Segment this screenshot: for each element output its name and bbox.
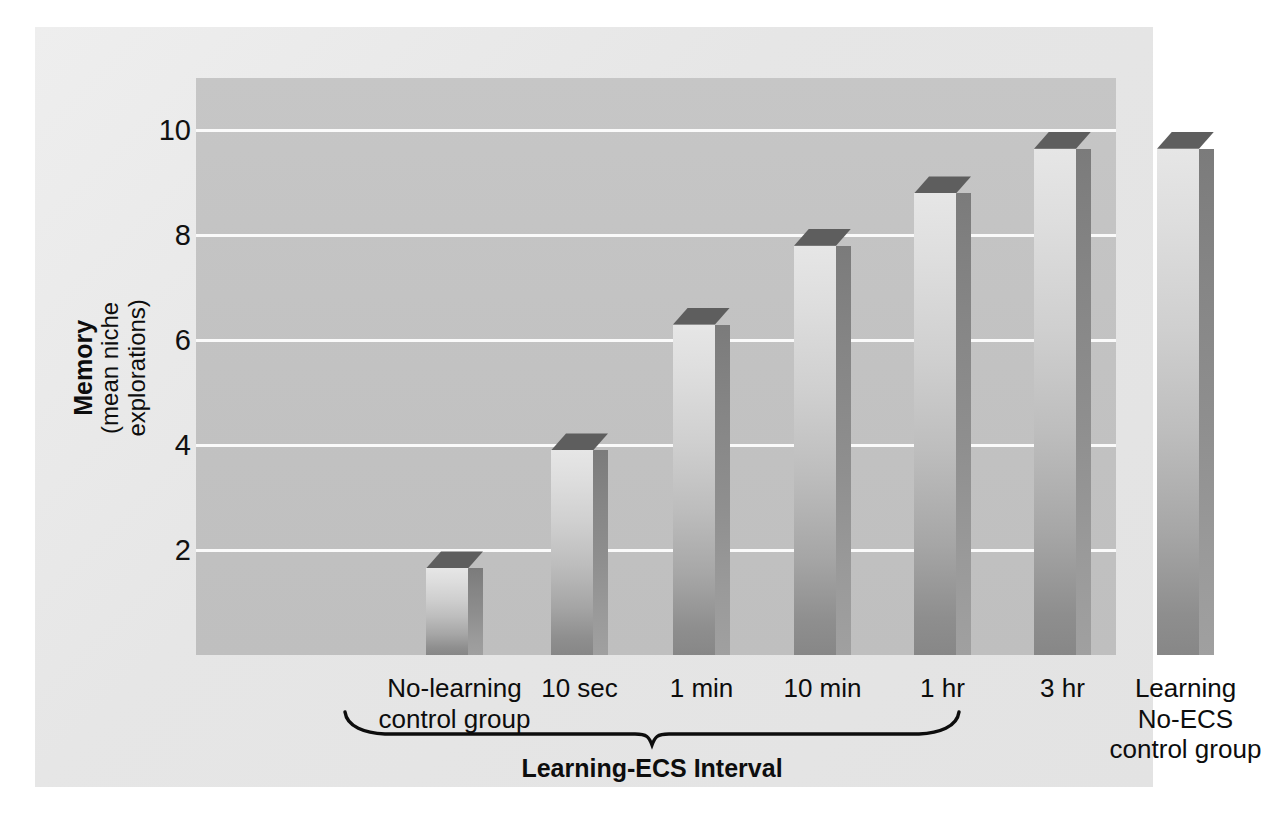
bar-side-face xyxy=(715,325,730,655)
chart-figure: 246810 Memory (mean niche explorations) … xyxy=(35,27,1153,787)
bar xyxy=(914,176,971,655)
bar-side-face xyxy=(836,246,851,655)
y-tick-label: 8 xyxy=(145,219,191,252)
bar-front-face xyxy=(1034,149,1076,655)
bar-front-face xyxy=(794,246,836,655)
bar-top-face xyxy=(673,308,730,325)
bar-side-face xyxy=(1199,149,1214,655)
bar-side-face xyxy=(593,450,608,655)
gridline xyxy=(196,234,1116,237)
bar xyxy=(551,433,608,655)
y-tick-label: 6 xyxy=(145,324,191,357)
bar xyxy=(673,308,730,655)
bar-front-face xyxy=(1157,149,1199,655)
bar xyxy=(1034,132,1091,655)
y-axis-title: Memory (mean niche explorations) xyxy=(69,238,151,498)
bar xyxy=(794,229,851,655)
brace-label: Learning-ECS Interval xyxy=(442,754,862,783)
bar-side-face xyxy=(956,193,971,655)
gridline xyxy=(196,444,1116,447)
bar-side-face xyxy=(468,568,483,655)
bar xyxy=(426,551,483,655)
gridline xyxy=(196,549,1116,552)
bar xyxy=(1157,132,1214,655)
bar-front-face xyxy=(551,450,593,655)
x-tick-label: Learning No-ECS control group xyxy=(1071,673,1265,765)
bar-top-face xyxy=(551,433,608,450)
y-axis-title-sub: (mean niche explorations) xyxy=(97,238,151,498)
bar-front-face xyxy=(426,568,468,655)
y-axis-title-main: Memory xyxy=(69,238,97,498)
bar-side-face xyxy=(1076,149,1091,655)
gridline xyxy=(196,339,1116,342)
y-tick-label: 10 xyxy=(145,114,191,147)
bar-top-face xyxy=(1157,132,1214,149)
bar-top-face xyxy=(794,229,851,246)
bar-front-face xyxy=(673,325,715,655)
y-tick-label: 4 xyxy=(145,429,191,462)
bar-top-face xyxy=(1034,132,1091,149)
bar-front-face xyxy=(914,193,956,655)
bar-top-face xyxy=(426,551,483,568)
y-tick-label: 2 xyxy=(145,534,191,567)
bar-top-face xyxy=(914,176,971,193)
plot-area xyxy=(196,78,1116,655)
gridline xyxy=(196,129,1116,132)
